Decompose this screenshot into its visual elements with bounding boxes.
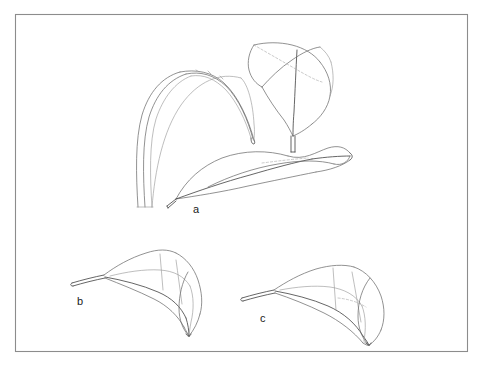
leaf-b-cross-vein-1 <box>160 254 163 290</box>
panel-curled-leaf-c <box>241 265 384 345</box>
folded-right-lobe-margin <box>312 62 331 124</box>
folded-inner-fold <box>262 47 320 87</box>
leaf-b-lower-margin <box>105 278 184 327</box>
blade-fold-line-2 <box>241 78 254 140</box>
folded-right-top-margin <box>320 47 331 62</box>
twisted-petiole-end <box>167 206 168 208</box>
blade-outer-edge <box>137 72 180 207</box>
blade-inner-edge-2 <box>151 76 191 207</box>
leaf-b-fold-curve-2 <box>189 286 193 336</box>
leaf-b-fold-curve <box>110 270 190 286</box>
leaf-b-petiole-lower <box>73 278 105 286</box>
leaf-c-cross-vein-1 <box>333 268 336 310</box>
panel-label-b: b <box>77 296 83 307</box>
panel-label-a: a <box>193 204 199 215</box>
figure-root: a b c <box>0 0 483 366</box>
panel-curled-leaf-b <box>71 250 202 336</box>
blade-crest-mid <box>186 73 253 139</box>
panel-twisted-leaf-a <box>167 147 352 208</box>
blade-inner-edge-1 <box>144 74 186 207</box>
twisted-tip <box>350 153 352 160</box>
folded-midrib <box>293 50 297 136</box>
twisted-midrib <box>176 159 312 199</box>
folded-left-lobe-top <box>254 43 320 62</box>
blade-crest-inner <box>191 76 251 138</box>
blade-fold-line <box>152 76 241 207</box>
leaf-c-petiole-end <box>241 298 243 301</box>
panel-arching-blade <box>137 70 255 207</box>
blade-crest-outer <box>180 71 254 140</box>
folded-left-lobe-margin <box>248 45 262 87</box>
twisted-hidden-edge <box>262 158 308 163</box>
panel-label-c: c <box>260 313 266 324</box>
leaf-b-upper-margin <box>104 250 176 275</box>
twisted-far-margin <box>208 161 334 187</box>
leaf-c-petiole-lower <box>243 293 275 301</box>
panel-folded-leaf <box>248 43 333 152</box>
figure-drawing <box>0 0 483 366</box>
leaf-b-cross-vein-2 <box>176 260 182 304</box>
leaf-c-lower-margin <box>275 293 363 343</box>
folded-hidden-edge <box>254 45 322 82</box>
folded-fold-to-base <box>262 87 293 136</box>
folded-right-lower-margin <box>293 124 312 136</box>
leaf-c-cross-vein-2 <box>352 272 361 322</box>
leaf-b-upper-margin-2 <box>176 253 202 314</box>
twisted-far-margin-2 <box>334 156 350 165</box>
twisted-midrib-2 <box>312 156 350 159</box>
twisted-upper-margin <box>176 152 288 199</box>
leaf-b-petiole-end <box>71 283 73 286</box>
